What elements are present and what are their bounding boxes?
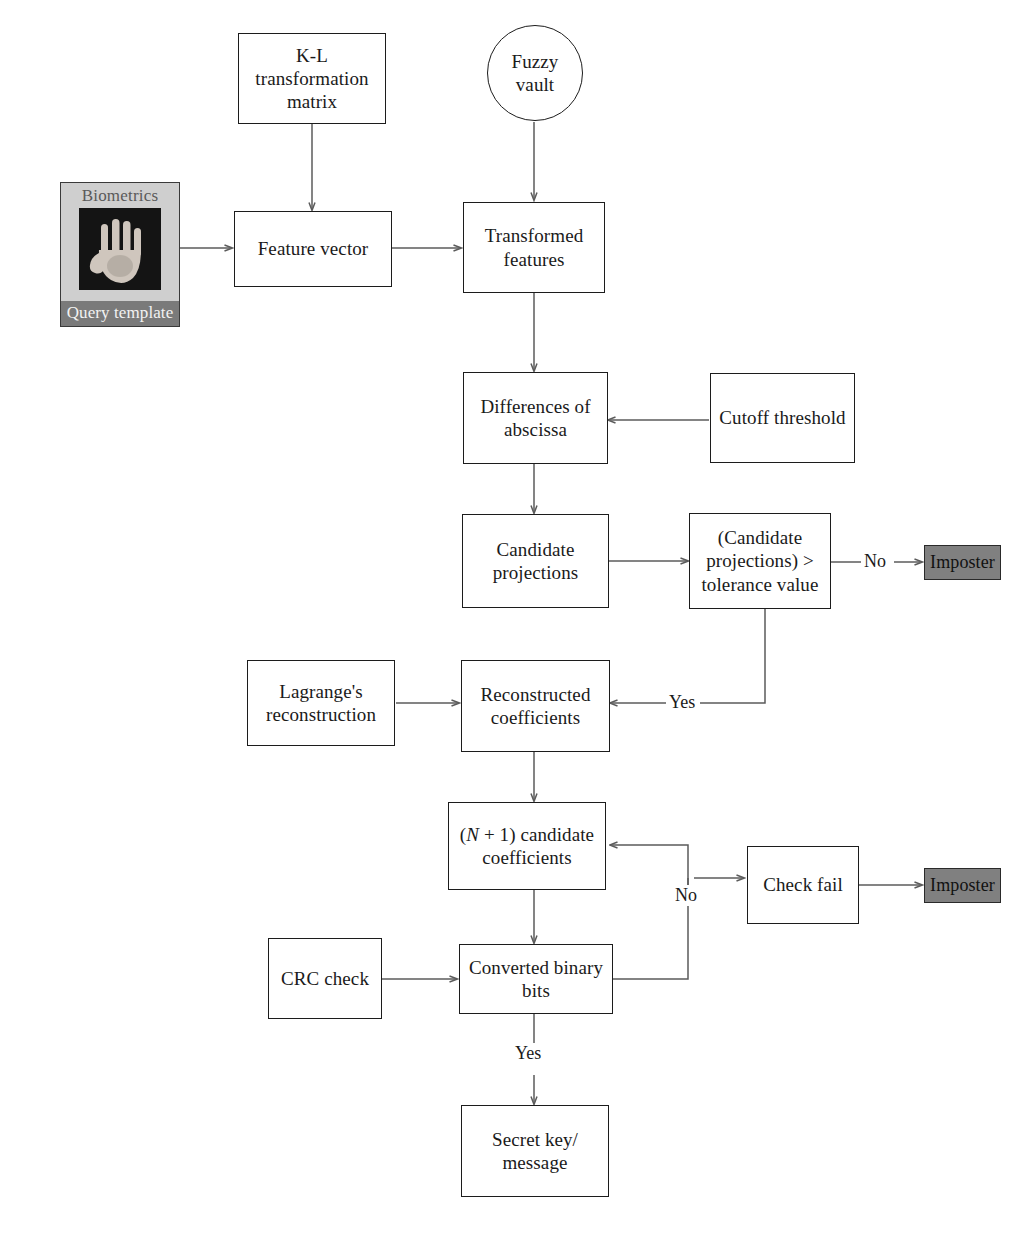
edge-label-yes-tolerance: Yes (666, 692, 698, 713)
node-crc-check[interactable]: CRC check (268, 938, 382, 1019)
node-cutoff-threshold-label: Cutoff threshold (719, 406, 845, 429)
node-tolerance-decision[interactable]: (Candidate projections) > tolerance valu… (689, 513, 831, 609)
node-imposter-top[interactable]: Imposter (924, 545, 1001, 580)
node-reconstructed-coefficients-label: Reconstructed coefficients (481, 683, 591, 729)
node-imposter-bottom[interactable]: Imposter (924, 868, 1001, 903)
node-biometrics-query-template[interactable]: Biometrics Query template (60, 182, 180, 327)
hand-biometric-image (79, 208, 161, 290)
node-fuzzy-vault-label: Fuzzy vault (512, 50, 559, 96)
node-lagrange-reconstruction-label: Lagrange's reconstruction (266, 680, 376, 726)
node-candidate-projections[interactable]: Candidate projections (462, 514, 609, 608)
node-converted-binary-bits[interactable]: Converted binary bits (459, 944, 613, 1014)
node-lagrange-reconstruction[interactable]: Lagrange's reconstruction (247, 660, 395, 746)
node-cutoff-threshold[interactable]: Cutoff threshold (710, 373, 855, 463)
node-converted-binary-bits-label: Converted binary bits (469, 956, 603, 1002)
node-secret-key-message[interactable]: Secret key/ message (461, 1105, 609, 1197)
node-tolerance-decision-label: (Candidate projections) > tolerance valu… (701, 526, 818, 596)
node-imposter-top-label: Imposter (930, 552, 995, 574)
node-feature-vector[interactable]: Feature vector (234, 211, 392, 287)
n-plus-one-italic-n: N (466, 824, 479, 845)
node-candidate-projections-label: Candidate projections (493, 538, 579, 584)
node-check-fail-label: Check fail (763, 873, 843, 896)
node-secret-key-message-label: Secret key/ message (492, 1128, 578, 1174)
node-transformed-features[interactable]: Transformed features (463, 202, 605, 293)
n-plus-one-suffix: + 1) candidate coefficients (479, 824, 594, 868)
node-kl-transformation-matrix[interactable]: K-L transformation matrix (238, 33, 386, 124)
edge-label-yes-crc: Yes (512, 1043, 544, 1064)
node-transformed-features-label: Transformed features (485, 224, 584, 270)
node-kl-transformation-matrix-label: K-L transformation matrix (255, 44, 368, 114)
node-differences-of-abscissa-label: Differences of abscissa (480, 395, 590, 441)
node-check-fail[interactable]: Check fail (747, 846, 859, 924)
node-n-plus-one-candidate-coefficients[interactable]: (N + 1) candidate coefficients (448, 802, 606, 890)
biometrics-title: Biometrics (82, 183, 159, 208)
node-feature-vector-label: Feature vector (258, 237, 369, 260)
edge-label-no-tolerance: No (861, 551, 889, 572)
flowchart-canvas: K-L transformation matrix Fuzzy vault Bi… (0, 0, 1028, 1241)
edge-label-no-crc: No (672, 885, 700, 906)
node-differences-of-abscissa[interactable]: Differences of abscissa (463, 372, 608, 464)
node-n-plus-one-candidate-coefficients-label: (N + 1) candidate coefficients (460, 823, 594, 869)
node-imposter-bottom-label: Imposter (930, 875, 995, 897)
node-fuzzy-vault[interactable]: Fuzzy vault (487, 25, 583, 121)
biometrics-caption: Query template (61, 301, 179, 326)
node-crc-check-label: CRC check (281, 967, 369, 990)
node-reconstructed-coefficients[interactable]: Reconstructed coefficients (461, 660, 610, 752)
